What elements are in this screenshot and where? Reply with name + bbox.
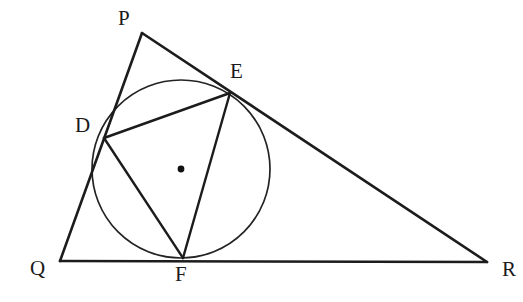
label-P: P — [118, 8, 130, 29]
label-D: D — [75, 115, 90, 136]
chord-DE — [104, 93, 230, 138]
incenter-dot — [178, 166, 185, 173]
label-F: F — [175, 264, 187, 285]
side-QR — [60, 261, 487, 262]
chord-EF — [183, 93, 230, 258]
side-PR — [142, 33, 487, 262]
figure-canvas — [0, 0, 523, 302]
label-Q: Q — [30, 258, 45, 279]
chord-FD — [104, 138, 183, 258]
geometry-figure: P Q R D E F — [0, 0, 523, 302]
label-R: R — [502, 259, 516, 280]
side-PQ — [60, 33, 142, 261]
label-E: E — [230, 61, 243, 82]
